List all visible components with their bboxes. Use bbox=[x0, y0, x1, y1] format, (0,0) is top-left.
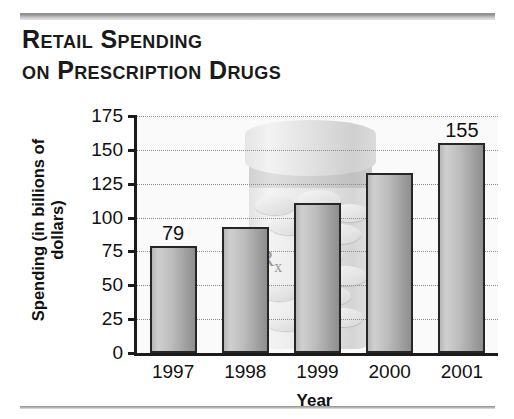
y-axis-tick bbox=[128, 217, 137, 220]
y-axis-tick-label: 175 bbox=[91, 105, 123, 127]
title-line-1: Retail Spending bbox=[22, 24, 492, 55]
y-axis-title: Spending (in billions of dollars) bbox=[29, 120, 67, 340]
y-axis-tick-label: 50 bbox=[102, 274, 123, 296]
plot-area: Rx 0255075100125150175 79155 19971998199… bbox=[134, 116, 498, 356]
y-axis-tick bbox=[128, 250, 137, 253]
bar: 155 bbox=[438, 143, 485, 353]
y-axis-tick bbox=[128, 115, 137, 118]
bar-chart: Spending (in billions of dollars) Rx 025… bbox=[0, 108, 514, 393]
x-axis-tick-label: 1997 bbox=[152, 361, 194, 383]
x-axis-tick-label: 2000 bbox=[369, 361, 411, 383]
x-axis-tick-label: 2001 bbox=[441, 361, 483, 383]
y-axis-tick bbox=[128, 352, 137, 355]
x-axis-tick-label: 1998 bbox=[224, 361, 266, 383]
y-axis-tick-label: 150 bbox=[91, 139, 123, 161]
bottle-neck-icon bbox=[249, 160, 372, 188]
y-axis-tick bbox=[128, 284, 137, 287]
y-axis-tick bbox=[128, 318, 137, 321]
y-axis-tick-label: 25 bbox=[102, 308, 123, 330]
y-axis-tick-label: 0 bbox=[112, 342, 123, 364]
bottle-cap-icon bbox=[245, 120, 376, 176]
page-title: Retail Spending on Prescription Drugs bbox=[22, 24, 492, 86]
bar bbox=[366, 173, 413, 353]
bar bbox=[294, 203, 341, 353]
header-rule bbox=[20, 13, 495, 20]
pill-icon bbox=[255, 196, 295, 215]
y-axis-tick-label: 125 bbox=[91, 173, 123, 195]
bar: 79 bbox=[150, 246, 197, 353]
x-axis-tick-label: 1999 bbox=[296, 361, 338, 383]
footer-rule bbox=[20, 406, 495, 409]
gridline bbox=[137, 116, 498, 117]
y-axis-tick bbox=[128, 183, 137, 186]
bar bbox=[222, 227, 269, 353]
rx-subscript: x bbox=[274, 258, 282, 275]
bar-value-label: 155 bbox=[445, 119, 478, 142]
title-line-2: on Prescription Drugs bbox=[22, 55, 492, 86]
y-axis-tick-label: 75 bbox=[102, 240, 123, 262]
bar-value-label: 79 bbox=[162, 222, 184, 245]
y-axis-tick-label: 100 bbox=[91, 207, 123, 229]
y-axis-tick bbox=[128, 149, 137, 152]
